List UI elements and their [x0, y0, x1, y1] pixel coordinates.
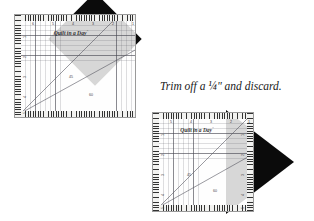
illustration-canvas: 45 60 6 5 4 3 2 1 1 2 3 4 5 Qui [0, 0, 314, 221]
angle-label-45: 45 [187, 173, 191, 177]
ruler-brand-logo: Quilt in a Day® [180, 127, 213, 133]
brand-name: Quilt in a Day [180, 127, 212, 133]
ruler-unit-bottom-right: 45 60 5 4 3 2 1 1 2 3 4 5 1 2 3 4 5 [0, 0, 314, 221]
tick-strip-right [247, 113, 253, 211]
ruler-bottom-right[interactable]: 45 60 5 4 3 2 1 1 2 3 4 5 1 2 3 4 5 [152, 112, 254, 212]
tick-strip-top [153, 113, 253, 119]
tick-strip-bottom [153, 205, 253, 211]
tick-strip-left [153, 113, 159, 211]
brand-trademark: ® [212, 127, 214, 130]
angle-label-60: 60 [213, 189, 217, 193]
